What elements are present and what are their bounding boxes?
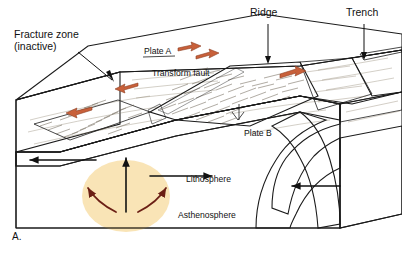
label-fracture-zone-line1: Fracture zone	[14, 28, 79, 40]
label-plate-b: Plate B	[244, 128, 272, 138]
label-ridge: Ridge	[250, 6, 278, 18]
label-asthenosphere: Asthenosphere	[178, 210, 236, 220]
block-diagram-svg: Fracture zone (inactive) Ridge Trench Pl…	[0, 0, 402, 255]
label-fracture-zone-line2: (inactive)	[14, 40, 57, 52]
figure-canvas: Fracture zone (inactive) Ridge Trench Pl…	[0, 0, 402, 255]
label-lithosphere: Lithosphere	[186, 174, 231, 184]
label-transform-fault: Transform fault	[152, 68, 210, 78]
label-trench: Trench	[346, 6, 378, 18]
panel-label: A.	[12, 231, 21, 242]
label-plate-a: Plate A	[144, 46, 172, 56]
